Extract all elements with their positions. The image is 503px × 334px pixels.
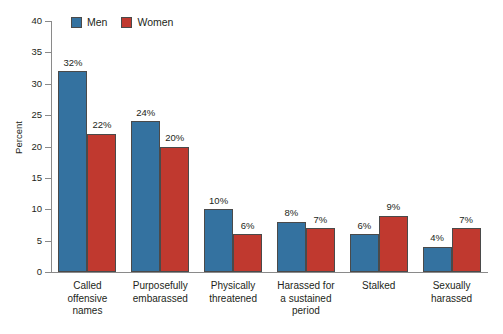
y-axis-tick-label-wrap: 35	[0, 47, 42, 57]
bar-value-label: 6%	[227, 221, 268, 231]
bar-men[interactable]	[204, 209, 233, 272]
y-axis-tick-label-wrap: 20	[0, 142, 42, 152]
y-axis-tick-label: 25	[2, 110, 42, 120]
bar-men[interactable]	[58, 71, 87, 272]
bar-men[interactable]	[423, 247, 452, 272]
y-axis-tick-label-wrap: 25	[0, 110, 42, 120]
y-axis-tick-label-wrap: 0	[0, 267, 42, 277]
x-axis-category-label-line: names	[39, 305, 135, 318]
bar-value-label: 7%	[300, 215, 341, 225]
bar-women[interactable]	[306, 228, 335, 272]
bar-value-label: 20%	[154, 133, 195, 143]
bar-women[interactable]	[160, 147, 189, 273]
x-axis-category-label-line: a sustained	[258, 293, 354, 306]
y-axis-tick-label: 10	[2, 204, 42, 214]
bar-value-label: 22%	[81, 120, 122, 130]
bar-group: 6%9%	[350, 21, 408, 272]
y-axis-tick-label: 5	[2, 236, 42, 246]
bar-group: 8%7%	[277, 21, 335, 272]
bar-value-label: 32%	[52, 58, 93, 68]
y-axis-tick-label: 20	[2, 142, 42, 152]
x-axis-line	[51, 272, 488, 273]
bar-value-label: 9%	[373, 202, 414, 212]
y-axis-tick-label-wrap: 40	[0, 16, 42, 26]
y-axis-tick-label: 15	[2, 173, 42, 183]
bar-group: 32%22%	[58, 21, 116, 272]
y-axis-tick-label-wrap: 30	[0, 79, 42, 89]
y-axis-tick-label: 0	[2, 267, 42, 277]
bar-women[interactable]	[452, 228, 481, 272]
bar-men[interactable]	[350, 234, 379, 272]
bar-men[interactable]	[131, 121, 160, 272]
bar-value-label: 24%	[125, 108, 166, 118]
bar-women[interactable]	[233, 234, 262, 272]
y-axis-tick-label-wrap: 5	[0, 236, 42, 246]
bar-value-label: 10%	[198, 196, 239, 206]
x-axis-category-label: Sexuallyharassed	[404, 280, 500, 305]
plot-area: 32%22%24%20%10%6%8%7%6%9%4%7%	[51, 21, 488, 272]
bar-women[interactable]	[87, 134, 116, 272]
y-axis-tick-label-wrap: 15	[0, 173, 42, 183]
x-axis-category-label-line: period	[258, 305, 354, 318]
bar-group: 10%6%	[204, 21, 262, 272]
bar-men[interactable]	[277, 222, 306, 272]
bar-chart: Percent 0510152025303540 MenWomen 32%22%…	[0, 0, 503, 334]
x-axis-category-label-line: Sexually	[404, 280, 500, 293]
bar-women[interactable]	[379, 216, 408, 272]
y-axis-tick-label: 35	[2, 47, 42, 57]
x-axis-category-label-line: harassed	[404, 293, 500, 306]
y-axis-tick-label: 30	[2, 79, 42, 89]
y-axis-tick-label: 40	[2, 16, 42, 26]
bar-value-label: 7%	[446, 215, 487, 225]
bar-group: 4%7%	[423, 21, 481, 272]
bar-group: 24%20%	[131, 21, 189, 272]
y-axis-tick-label-wrap: 10	[0, 204, 42, 214]
